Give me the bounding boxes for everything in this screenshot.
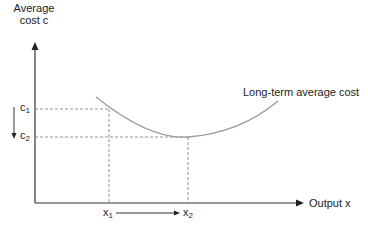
cost-decrease-arrowhead-icon — [12, 133, 17, 139]
y-axis-label-line1: Average — [10, 2, 58, 14]
tick-c1-sub: 1 — [26, 106, 30, 115]
x-axis-arrowhead-icon — [296, 200, 304, 207]
y-axis-label: Average cost c — [10, 2, 58, 26]
tick-x1-sub: 1 — [109, 211, 113, 220]
curve-label: Long-term average cost — [243, 86, 359, 98]
tick-x2: x2 — [183, 206, 193, 218]
output-increase-arrowhead-icon — [174, 211, 180, 216]
y-axis-label-line2: cost c — [10, 14, 58, 26]
tick-x2-sub: 2 — [189, 211, 193, 220]
x-axis-label: Output x — [309, 197, 351, 209]
tick-c1: c1 — [20, 101, 30, 113]
tick-c2: c2 — [20, 129, 30, 141]
tick-c2-sub: 2 — [26, 134, 30, 143]
tick-x1: x1 — [103, 206, 113, 218]
y-axis-arrowhead-icon — [32, 42, 39, 50]
diagram-canvas — [0, 0, 368, 230]
long-term-average-cost-curve — [96, 97, 278, 137]
